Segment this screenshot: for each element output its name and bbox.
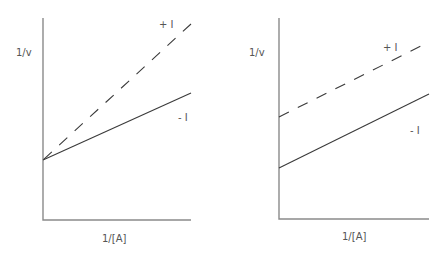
- left-chart: 1/v 1/[A] + I - I: [16, 18, 191, 244]
- left-x-axis-label: 1/[A]: [102, 233, 126, 244]
- left-plus-i-label: + I: [159, 19, 174, 30]
- left-y-axis-label: 1/v: [16, 47, 32, 58]
- right-line-minus-i: [279, 94, 429, 168]
- right-y-axis-label: 1/v: [249, 47, 265, 58]
- right-chart: 1/v 1/[A] + I - I: [249, 18, 429, 242]
- right-minus-i-label: - I: [410, 125, 420, 136]
- figure: 1/v 1/[A] + I - I 1/v 1/[A] + I - I: [0, 0, 444, 255]
- right-axes: [279, 18, 429, 219]
- left-line-plus-i: [43, 24, 191, 160]
- right-line-plus-i: [279, 42, 429, 117]
- left-axes: [43, 18, 191, 220]
- right-x-axis-label: 1/[A]: [342, 231, 366, 242]
- right-plus-i-label: + I: [383, 42, 398, 53]
- left-line-minus-i: [43, 93, 191, 160]
- left-minus-i-label: - I: [178, 112, 188, 123]
